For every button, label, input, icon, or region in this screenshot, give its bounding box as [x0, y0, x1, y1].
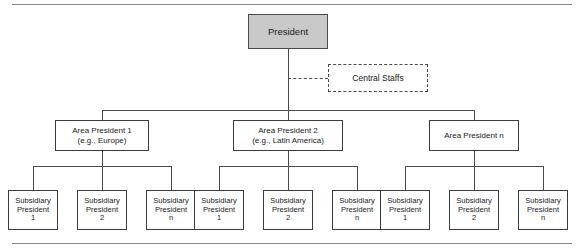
- connector-drop-area-1: [102, 110, 103, 120]
- connector-drop-sub-1-1: [33, 166, 34, 190]
- connector-president-trunk: [288, 49, 289, 110]
- node-subsidiary-2-1[interactable]: Subsidiary President 1: [194, 190, 244, 230]
- node-area-president-3[interactable]: Area President n: [429, 120, 519, 151]
- connector-drop-area-2: [288, 110, 289, 120]
- node-central-staffs[interactable]: Central Staffs: [328, 64, 428, 92]
- connector-drop-area-3: [474, 110, 475, 120]
- connector-drop-sub-3-3: [543, 166, 544, 190]
- node-area-president-1[interactable]: Area President 1 (e.g., Europe): [55, 120, 149, 151]
- node-subsidiary-3-3[interactable]: Subsidiary President n: [518, 190, 568, 230]
- node-area-president-2[interactable]: Area President 2 (e.g., Latin America): [233, 120, 343, 151]
- node-president[interactable]: President: [248, 14, 328, 49]
- org-chart-figure: President Central Staffs Area President …: [0, 0, 584, 251]
- connector-drop-sub-2-3: [357, 166, 358, 190]
- node-subsidiary-2-2[interactable]: Subsidiary President 2: [263, 190, 313, 230]
- connector-stem-area-3: [474, 151, 475, 166]
- connector-drop-sub-3-2: [474, 166, 475, 190]
- node-subsidiary-2-3[interactable]: Subsidiary President n: [332, 190, 382, 230]
- node-subsidiary-1-1[interactable]: Subsidiary President 1: [8, 190, 58, 230]
- node-subsidiary-3-1[interactable]: Subsidiary President 1: [380, 190, 430, 230]
- top-divider-rule: [12, 4, 572, 5]
- connector-drop-sub-1-2: [102, 166, 103, 190]
- connector-stem-area-2: [288, 151, 289, 166]
- node-subsidiary-1-3[interactable]: Subsidiary President n: [146, 190, 196, 230]
- connector-drop-sub-2-2: [288, 166, 289, 190]
- connector-drop-sub-2-1: [219, 166, 220, 190]
- connector-central-staffs-dashed: [288, 78, 328, 79]
- connector-stem-area-1: [102, 151, 103, 166]
- node-subsidiary-1-2[interactable]: Subsidiary President 2: [77, 190, 127, 230]
- connector-drop-sub-3-1: [405, 166, 406, 190]
- connector-drop-sub-1-3: [171, 166, 172, 190]
- bottom-divider-rule: [12, 243, 572, 244]
- node-subsidiary-3-2[interactable]: Subsidiary President 2: [449, 190, 499, 230]
